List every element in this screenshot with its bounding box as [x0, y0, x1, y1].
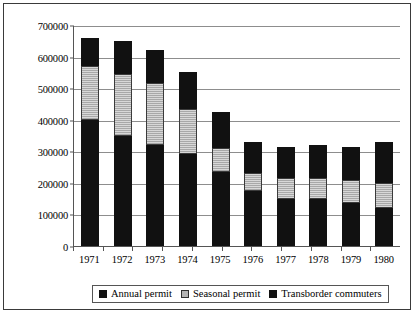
plot-area: 0100000200000300000400000500000600000700… [73, 26, 400, 247]
bar-segment-seasonal-permit[interactable] [277, 178, 295, 199]
bar-column[interactable] [74, 26, 107, 246]
bar-segment-annual-permit[interactable] [114, 136, 132, 247]
bar-stack[interactable] [179, 72, 197, 246]
bar-segment-seasonal-permit[interactable] [244, 173, 262, 190]
legend-label: Seasonal permit [193, 288, 260, 299]
bar-column[interactable] [204, 26, 237, 246]
bar-segment-seasonal-permit[interactable] [179, 109, 197, 155]
bar-segment-transborder-commuters[interactable] [212, 112, 230, 148]
x-tick-slot [370, 247, 400, 251]
legend-item[interactable]: Seasonal permit [181, 288, 260, 299]
bar-column[interactable] [172, 26, 205, 246]
bar-segment-transborder-commuters[interactable] [309, 145, 327, 178]
bar-stack[interactable] [146, 50, 164, 246]
bar-segment-annual-permit[interactable] [309, 199, 327, 246]
x-tick-slot [341, 247, 371, 251]
bar-segment-annual-permit[interactable] [81, 120, 99, 246]
bar-stack[interactable] [212, 112, 230, 246]
bar-column[interactable] [107, 26, 140, 246]
x-tick-slot [73, 247, 103, 251]
x-axis-tick-label: 1972 [106, 254, 139, 265]
bar-column[interactable] [302, 26, 335, 246]
legend-label: Transborder commuters [281, 288, 381, 299]
bar-segment-transborder-commuters[interactable] [179, 72, 197, 108]
bar-series-group [74, 26, 400, 246]
chart-frame: 0100000200000300000400000500000600000700… [3, 3, 411, 310]
x-axis-tick-label: 1976 [237, 254, 270, 265]
x-axis-tick [192, 247, 193, 251]
x-axis-tick [103, 247, 104, 251]
x-axis-tick-label: 1971 [73, 254, 106, 265]
bar-segment-transborder-commuters[interactable] [277, 147, 295, 179]
bar-segment-annual-permit[interactable] [342, 203, 360, 246]
bar-segment-annual-permit[interactable] [146, 145, 164, 246]
x-tick-slot [192, 247, 222, 251]
bar-column[interactable] [139, 26, 172, 246]
bar-segment-seasonal-permit[interactable] [81, 66, 99, 120]
x-axis-tick-label: 1974 [171, 254, 204, 265]
bar-segment-annual-permit[interactable] [244, 191, 262, 246]
bar-segment-seasonal-permit[interactable] [342, 180, 360, 204]
bar-segment-seasonal-permit[interactable] [375, 183, 393, 208]
bar-stack[interactable] [277, 147, 295, 246]
bar-segment-seasonal-permit[interactable] [146, 83, 164, 145]
legend-swatch-icon [181, 290, 189, 298]
x-axis-tick [73, 247, 74, 251]
bar-segment-annual-permit[interactable] [212, 172, 230, 246]
x-tick-slot [222, 247, 252, 251]
x-axis-tick-label: 1978 [302, 254, 335, 265]
bar-column[interactable] [335, 26, 368, 246]
x-axis-labels: 1971197219731974197519761977197819791980 [73, 254, 400, 265]
bar-stack[interactable] [114, 41, 132, 246]
bar-stack[interactable] [81, 38, 99, 246]
x-tick-slot [162, 247, 192, 251]
x-tick-slot [251, 247, 281, 251]
x-axis-tick [341, 247, 342, 251]
bar-column[interactable] [367, 26, 400, 246]
y-axis-tick-label: 0 [63, 242, 68, 253]
bar-segment-transborder-commuters[interactable] [146, 50, 164, 83]
bar-segment-transborder-commuters[interactable] [342, 147, 360, 180]
legend-item[interactable]: Annual permit [99, 288, 172, 299]
bar-segment-transborder-commuters[interactable] [114, 41, 132, 74]
x-tick-slot [103, 247, 133, 251]
x-axis-ticks [73, 247, 400, 251]
y-axis-tick-label: 200000 [38, 178, 68, 189]
y-axis-tick-label: 300000 [38, 147, 68, 158]
bar-stack[interactable] [375, 142, 393, 246]
y-axis-tick-label: 400000 [38, 115, 68, 126]
x-axis-tick-label: 1977 [269, 254, 302, 265]
bar-segment-annual-permit[interactable] [179, 154, 197, 246]
bar-segment-transborder-commuters[interactable] [244, 142, 262, 174]
bar-segment-seasonal-permit[interactable] [114, 74, 132, 136]
bar-column[interactable] [237, 26, 270, 246]
x-axis-tick [311, 247, 312, 251]
bar-stack[interactable] [244, 142, 262, 246]
bar-segment-annual-permit[interactable] [277, 199, 295, 246]
bar-segment-transborder-commuters[interactable] [81, 38, 99, 66]
chart-legend: Annual permitSeasonal permitTransborder … [92, 285, 389, 303]
legend-swatch-icon [99, 290, 107, 298]
bar-segment-seasonal-permit[interactable] [309, 178, 327, 199]
x-axis-tick [370, 247, 371, 251]
x-axis-tick [281, 247, 282, 251]
bar-segment-seasonal-permit[interactable] [212, 148, 230, 172]
bar-stack[interactable] [309, 145, 327, 246]
x-axis-tick-label: 1973 [138, 254, 171, 265]
x-axis-tick-label: 1975 [204, 254, 237, 265]
bar-stack[interactable] [342, 147, 360, 246]
x-axis-tick [132, 247, 133, 251]
y-axis-tick-label: 700000 [38, 21, 68, 32]
x-axis-tick [251, 247, 252, 251]
bar-segment-transborder-commuters[interactable] [375, 142, 393, 183]
x-tick-slot [132, 247, 162, 251]
x-axis-tick-label: 1979 [335, 254, 368, 265]
x-axis-tick [162, 247, 163, 251]
bar-segment-annual-permit[interactable] [375, 208, 393, 246]
x-axis-tick-label: 1980 [367, 254, 400, 265]
y-axis-tick-label: 500000 [38, 84, 68, 95]
bar-column[interactable] [270, 26, 303, 246]
legend-swatch-icon [269, 290, 277, 298]
legend-item[interactable]: Transborder commuters [269, 288, 381, 299]
x-tick-slot [311, 247, 341, 251]
